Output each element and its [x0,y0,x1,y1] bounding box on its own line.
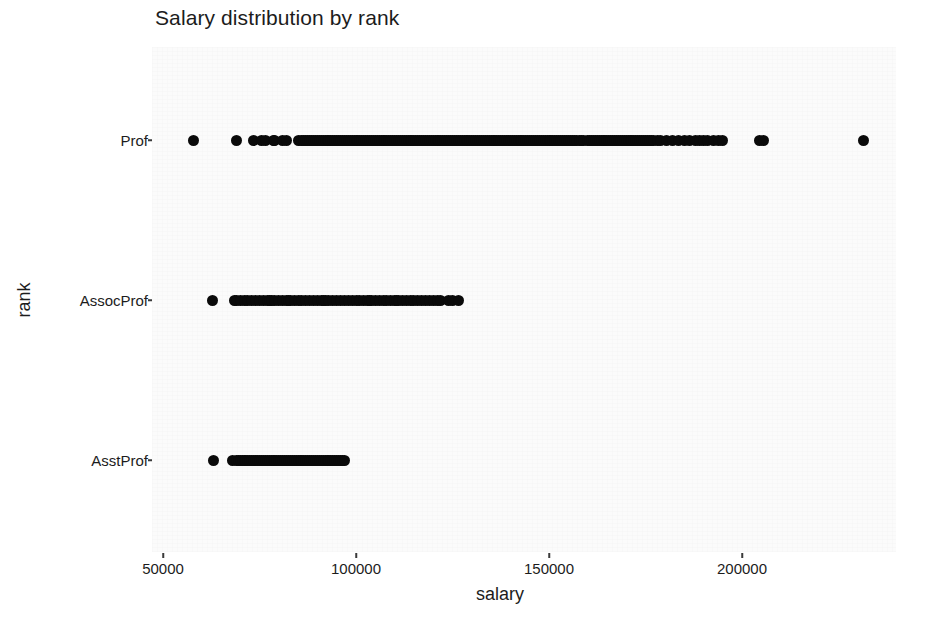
x-tick-mark [741,553,743,558]
y-axis-title: rank [14,282,35,317]
x-axis-title-text: salary [476,584,524,604]
x-tick-mark [548,553,550,558]
y-tick-mark [148,459,152,461]
plot-panel [152,47,896,552]
x-tick-mark [355,553,357,558]
x-tick-mark [162,553,164,558]
y-tick-label-assocprof: AssocProf [80,292,148,309]
chart-title: Salary distribution by rank [155,6,399,30]
y-axis-tick-labels: ProfAssocProfAsstProf [0,0,148,636]
x-axis-title: salary [0,584,943,605]
x-tick-label: 50000 [142,560,184,577]
y-tick-mark [148,299,152,301]
y-tick-label-asstprof: AsstProf [91,452,148,469]
x-tick-label: 150000 [524,560,574,577]
x-tick-label: 100000 [331,560,381,577]
chart-figure: Salary distribution by rank ProfAssocPro… [0,0,943,636]
y-tick-label-prof: Prof [120,132,148,149]
y-tick-mark [148,139,152,141]
x-tick-label: 200000 [717,560,767,577]
panel-texture [152,47,896,552]
